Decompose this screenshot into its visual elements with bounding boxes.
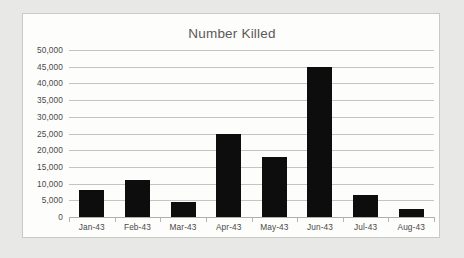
y-axis-tick-label: 35,000 (37, 95, 63, 105)
x-axis-label-jun-43: Jun-43 (297, 222, 343, 232)
bar-cell (297, 50, 343, 217)
bar-cell (160, 50, 206, 217)
bar-jan-43[interactable] (79, 190, 104, 217)
y-axis-tick-label: 45,000 (37, 62, 63, 72)
x-axis-label-jan-43: Jan-43 (69, 222, 115, 232)
bar-may-43[interactable] (262, 157, 287, 217)
y-axis-tick-label: 20,000 (37, 145, 63, 155)
y-axis-tick-label: 40,000 (37, 78, 63, 88)
x-axis-label-apr-43: Apr-43 (206, 222, 252, 232)
bar-cell (252, 50, 298, 217)
bar-cell (115, 50, 161, 217)
bar-cell (388, 50, 434, 217)
y-axis-tick-label: 10,000 (37, 179, 63, 189)
bar-mar-43[interactable] (171, 202, 196, 217)
bar-apr-43[interactable] (216, 134, 241, 218)
bar-aug-43[interactable] (399, 209, 424, 217)
bar-jul-43[interactable] (353, 195, 378, 217)
y-axis-tick-label: 25,000 (37, 129, 63, 139)
bar-cell (69, 50, 115, 217)
x-axis-label-may-43: May-43 (252, 222, 298, 232)
y-axis-tick-label: 5,000 (42, 195, 63, 205)
plot-area: 05,00010,00015,00020,00025,00030,00035,0… (69, 50, 434, 217)
x-axis-labels: Jan-43Feb-43Mar-43Apr-43May-43Jun-43Jul-… (69, 222, 434, 232)
y-axis-tick-label: 0 (58, 212, 63, 222)
x-axis-label-aug-43: Aug-43 (388, 222, 434, 232)
bar-feb-43[interactable] (125, 180, 150, 217)
x-axis-tick (434, 217, 435, 222)
chart-title: Number Killed (23, 26, 441, 41)
bar-cell (343, 50, 389, 217)
bar-jun-43[interactable] (307, 67, 332, 217)
x-axis-label-jul-43: Jul-43 (343, 222, 389, 232)
y-axis-tick-label: 50,000 (37, 45, 63, 55)
bar-cell (206, 50, 252, 217)
chart-container: Number Killed 05,00010,00015,00020,00025… (22, 13, 440, 238)
bars-group (69, 50, 434, 217)
x-axis-label-feb-43: Feb-43 (115, 222, 161, 232)
y-axis-tick-label: 30,000 (37, 112, 63, 122)
x-axis-label-mar-43: Mar-43 (160, 222, 206, 232)
y-axis-tick-label: 15,000 (37, 162, 63, 172)
